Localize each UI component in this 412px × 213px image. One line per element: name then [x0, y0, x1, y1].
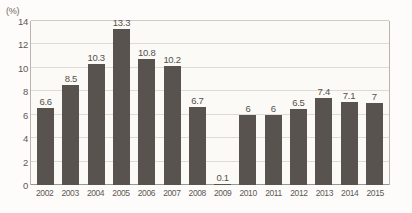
plot-area: 6.68.510.313.310.810.26.70.1666.57.47.17 — [30, 21, 390, 185]
x-axis-tick-label: 2012 — [286, 188, 311, 198]
bar-value-label: 10.2 — [152, 54, 192, 65]
x-axis-tick-label: 2013 — [312, 188, 337, 198]
bar-slot: 6.6 — [33, 21, 58, 185]
bar-value-label: 13.3 — [101, 17, 141, 28]
x-axis-tick-label: 2015 — [362, 188, 387, 198]
bar-2012 — [290, 109, 307, 185]
bar-slot: 10.3 — [84, 21, 109, 185]
y-axis-tick-label: 12 — [4, 39, 28, 50]
bar-2014 — [341, 102, 358, 185]
bar-slot: 6.5 — [286, 21, 311, 185]
x-axis-tick-label: 2004 — [83, 188, 108, 198]
x-axis-tick-label: 2008 — [185, 188, 210, 198]
bar-slot: 10.8 — [134, 21, 159, 185]
y-axis-tick-label: 2 — [4, 156, 28, 167]
bar-value-label: 10.3 — [76, 52, 116, 63]
x-axis-tick-label: 2002 — [32, 188, 57, 198]
y-axis-tick-label: 0 — [4, 180, 28, 191]
bar-chart-figure: (%) 6.68.510.313.310.810.26.70.1666.57.4… — [0, 0, 412, 213]
bar-2009 — [214, 184, 231, 185]
bar-slot: 7.1 — [336, 21, 361, 185]
bar-2013 — [315, 98, 332, 185]
y-axis-tick-label: 4 — [4, 133, 28, 144]
x-axis-tick-label: 2003 — [57, 188, 82, 198]
x-axis-tick-label: 2011 — [261, 188, 286, 198]
bar-value-label: 6.5 — [278, 97, 318, 108]
y-axis-tick-label: 10 — [4, 62, 28, 73]
x-axis-tick-label: 2006 — [134, 188, 159, 198]
x-axis: 2002200320042005200620072008200920102011… — [30, 188, 390, 198]
x-axis-tick-label: 2014 — [337, 188, 362, 198]
y-axis-tick-label: 8 — [4, 86, 28, 97]
y-axis-tick-label: 6 — [4, 109, 28, 120]
x-axis-tick-label: 2007 — [159, 188, 184, 198]
y-axis-tick-label: 14 — [4, 16, 28, 27]
bar-2015 — [366, 103, 383, 185]
x-axis-tick-label: 2009 — [210, 188, 235, 198]
bar-value-label: 8.5 — [51, 73, 91, 84]
bar-value-label: 6.7 — [177, 95, 217, 106]
bar-2011 — [265, 115, 282, 185]
bar-value-label: 0.1 — [203, 172, 243, 183]
bar-slot: 6.7 — [185, 21, 210, 185]
x-axis-tick-label: 2005 — [108, 188, 133, 198]
bars-group: 6.68.510.313.310.810.26.70.1666.57.47.17 — [31, 21, 389, 185]
bar-value-label: 7 — [354, 91, 394, 102]
bar-2002 — [37, 108, 54, 185]
x-axis-tick-label: 2010 — [235, 188, 260, 198]
bar-value-label: 6.6 — [26, 96, 66, 107]
bar-2006 — [138, 59, 155, 186]
bar-slot: 7 — [362, 21, 387, 185]
y-axis-unit-label: (%) — [6, 6, 19, 16]
bar-2007 — [164, 66, 181, 185]
